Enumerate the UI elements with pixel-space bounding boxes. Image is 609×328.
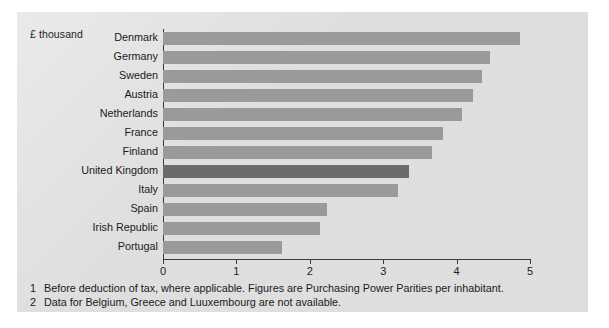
category-label: Netherlands — [100, 107, 158, 119]
bar-row: Netherlands — [163, 106, 530, 125]
bar — [163, 70, 482, 83]
bar-row: Austria — [163, 87, 530, 106]
bar — [163, 32, 520, 45]
footnote: 2Data for Belgium, Greece and Luuxembour… — [30, 295, 578, 309]
bar-rows: DenmarkGermanySwedenAustriaNetherlandsFr… — [163, 30, 530, 258]
bar-row: Portugal — [163, 239, 530, 258]
bar — [163, 222, 320, 235]
bar — [163, 146, 432, 159]
category-label: Sweden — [119, 69, 158, 81]
category-label: Austria — [124, 88, 158, 100]
x-tick-mark — [383, 259, 384, 264]
x-tick-mark — [457, 259, 458, 264]
footnote-number: 2 — [30, 295, 44, 309]
bar-row: Denmark — [163, 30, 530, 49]
category-label: Irish Republic — [93, 221, 158, 233]
category-label: Finland — [123, 145, 158, 157]
x-tick-mark — [236, 259, 237, 264]
x-tick-label: 5 — [527, 265, 533, 277]
bar — [163, 89, 473, 102]
bar — [163, 127, 443, 140]
bar-row: United Kingdom — [163, 163, 530, 182]
category-label: Italy — [138, 183, 158, 195]
chart-screenshot: £ thousand 012345 DenmarkGermanySwedenAu… — [0, 0, 609, 328]
bar-row: France — [163, 125, 530, 144]
bar — [163, 51, 490, 64]
x-tick-label: 3 — [380, 265, 386, 277]
x-tick-label: 1 — [233, 265, 239, 277]
category-label: France — [124, 126, 158, 138]
x-tick-mark — [530, 259, 531, 264]
bar-row: Germany — [163, 49, 530, 68]
footnote-text: Before deduction of tax, where applicabl… — [44, 281, 504, 295]
bar-row: Sweden — [163, 68, 530, 87]
x-tick-mark — [310, 259, 311, 264]
bar-row: Irish Republic — [163, 220, 530, 239]
bar-row: Italy — [163, 182, 530, 201]
footnote-number: 1 — [30, 281, 44, 295]
bar — [163, 241, 282, 254]
bar — [163, 108, 462, 121]
footnote-text: Data for Belgium, Greece and Luuxembourg… — [44, 295, 341, 309]
bar — [163, 165, 409, 178]
bar-row: Spain — [163, 201, 530, 220]
category-label: United Kingdom — [81, 164, 158, 176]
unit-label: £ thousand — [30, 28, 83, 40]
bar-row: Finland — [163, 144, 530, 163]
category-label: Portugal — [118, 240, 158, 252]
x-tick-label: 4 — [454, 265, 460, 277]
x-tick-label: 0 — [160, 265, 166, 277]
x-axis-line — [163, 259, 530, 260]
bar — [163, 203, 327, 216]
category-label: Spain — [130, 202, 158, 214]
x-tick-label: 2 — [307, 265, 313, 277]
x-tick-mark — [163, 259, 164, 264]
category-label: Germany — [114, 50, 158, 62]
footnote: 1Before deduction of tax, where applicab… — [30, 281, 578, 295]
category-label: Denmark — [114, 31, 158, 43]
footnotes: 1Before deduction of tax, where applicab… — [30, 281, 578, 309]
bar — [163, 184, 398, 197]
